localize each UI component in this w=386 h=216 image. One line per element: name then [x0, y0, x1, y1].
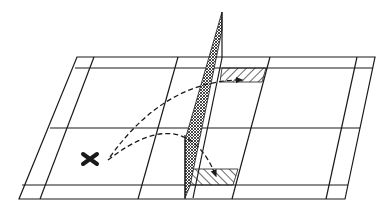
- near-target-zone: [188, 169, 238, 185]
- player-marker-x: [83, 154, 97, 164]
- badminton-diagram: Badminton court shot diagram: [0, 0, 386, 216]
- far-target-zone: [220, 68, 266, 82]
